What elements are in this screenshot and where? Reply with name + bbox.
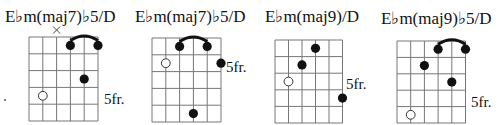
finger-dot (311, 44, 320, 53)
fretboard-grid (152, 38, 221, 122)
finger-dot (80, 74, 89, 83)
chord-diagram-sheet: E♭m(maj7)♭5/D5fr.E♭m(maj7)♭5/D5fr.E♭m(ma… (0, 0, 502, 125)
finger-dot (189, 109, 198, 118)
fret-position-label: 5fr. (471, 94, 491, 110)
open-note-circle (38, 91, 47, 100)
fret-position-label: 5fr. (226, 59, 246, 75)
finger-dot (447, 77, 456, 86)
chord-diagram: E♭m(maj9)/D5fr. (265, 7, 366, 123)
chord-name: E♭m(maj9)/D (265, 7, 359, 26)
finger-dot (175, 42, 184, 51)
finger-dot (297, 60, 306, 69)
chord-name: E♭m(maj9)♭5/D (381, 9, 491, 28)
chord-diagram: E♭m(maj7)♭5/D5fr. (135, 7, 246, 122)
chord-name: E♭m(maj7)♭5/D (5, 7, 115, 26)
open-note-circle (406, 110, 415, 119)
chord-diagram: E♭m(maj9)♭5/D5fr. (381, 9, 491, 123)
finger-dot (420, 61, 429, 70)
stray-dot-mark (4, 99, 6, 101)
finger-dot (461, 45, 470, 54)
chord-diagram: E♭m(maj7)♭5/D5fr. (5, 7, 124, 121)
finger-dot (93, 41, 102, 50)
muted-string-x-icon (53, 27, 60, 34)
chord-name: E♭m(maj7)♭5/D (135, 7, 245, 26)
open-note-circle (161, 59, 170, 68)
chord-diagrams: E♭m(maj7)♭5/D5fr.E♭m(maj7)♭5/D5fr.E♭m(ma… (5, 7, 491, 123)
open-note-circle (284, 77, 293, 86)
finger-dot (216, 59, 225, 68)
finger-dot (203, 42, 212, 51)
fret-position-label: 5fr. (104, 91, 124, 107)
fret-position-label: 5fr. (346, 76, 366, 92)
finger-dot (338, 94, 347, 103)
finger-dot (66, 41, 75, 50)
finger-dot (434, 45, 443, 54)
